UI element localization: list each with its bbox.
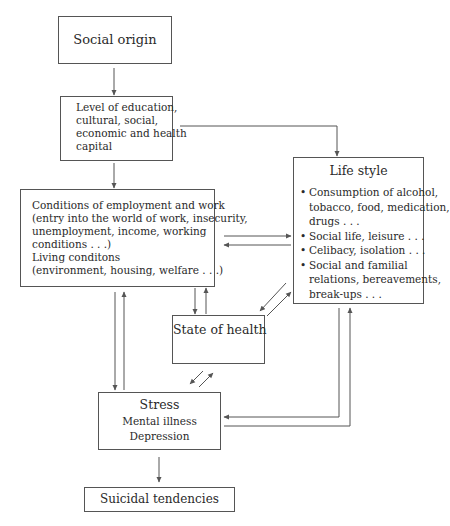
node-social-origin: Social origin (58, 16, 172, 64)
arrow-stress-to-health (199, 373, 213, 387)
node-label: State of health (173, 322, 264, 337)
node-line: (environment, housing, welfare . . .) (32, 264, 223, 278)
node-line: (entry into the world of work, insecurit… (32, 212, 248, 226)
node-title: Life style (294, 163, 423, 178)
node-capital: Level of education, cultural, social, ec… (60, 96, 173, 161)
bullet-item: Social life, leisure . . . (300, 229, 450, 244)
node-state-of-health: State of health (172, 315, 265, 364)
node-label: Social origin (59, 32, 171, 47)
node-stress: Stress Mental illness Depression (98, 392, 221, 450)
bullet-item: Social and familial relations, bereaveme… (300, 258, 450, 302)
node-line: economic and health (76, 127, 187, 141)
node-line: conditions . . .) (32, 238, 111, 252)
node-line: Mental illness (99, 415, 220, 428)
node-line: capital (76, 140, 112, 154)
node-conditions: Conditions of employment and work (entry… (20, 189, 215, 287)
bullet-item: Celibacy, isolation . . . (300, 243, 450, 258)
node-life-style: Life style Consumption of alcohol, tobac… (293, 157, 424, 304)
node-line: cultural, social, (76, 114, 158, 128)
arrow-health-to-lifestyle (267, 292, 291, 316)
node-line: Depression (99, 430, 220, 443)
arrow-lifestyle-to-health (260, 283, 286, 311)
node-suicidal-tendencies: Suicidal tendencies (84, 487, 235, 512)
node-label: Suicidal tendencies (85, 492, 234, 506)
node-line: Living conditons (32, 251, 120, 265)
arrow-capital-to-lifestyle (180, 126, 337, 156)
bullet-list: Consumption of alcohol, tobacco, food, m… (300, 185, 450, 301)
bullet-item: Consumption of alcohol, tobacco, food, m… (300, 185, 450, 229)
node-line: Level of education, (76, 101, 177, 115)
node-line: unemployment, income, working (32, 225, 207, 239)
arrow-health-to-stress (190, 371, 203, 384)
node-line: Stress (99, 397, 220, 412)
node-line: Conditions of employment and work (32, 199, 225, 213)
